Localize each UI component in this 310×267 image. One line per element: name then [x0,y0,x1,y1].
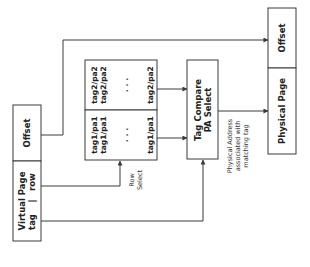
row-label: row [27,173,37,191]
tag-entry: tag1/pa1 [146,116,155,154]
ellipsis: . . . [121,78,130,93]
tag-compare-box: Tag Compare PA Select [187,60,218,159]
virtual-address-box: Offset Virtual Page tag | row [13,105,41,241]
pa-note-line-2: associated with [234,121,242,172]
compare-label-2: PA Select [203,88,213,133]
ellipsis: . . . [121,128,130,143]
row-select-arrow [41,161,120,186]
pa-note-line-3: matching tag [242,124,250,167]
virtual-page-label: Virtual Page [17,171,27,230]
tlb-diagram: Offset Virtual Page tag | row tag2/pa2 t… [0,0,310,267]
physical-page-label: Physical Page [277,78,287,144]
pa-note-line-1: Physical Address [226,118,234,173]
tag-entry: tag2/pa2 [90,66,99,104]
tag-entry: tag1/pa1 [99,116,108,154]
tag-entry: tag1/pa1 [90,116,99,154]
row-select-label-1: Row [128,173,136,187]
physical-address-box: Offset Physical Page [268,8,296,154]
physical-offset-label: Offset [277,24,287,53]
tag-array: tag2/pa2 tag2/pa2 tag2/pa2 . . . tag1/pa… [85,60,157,160]
virtual-offset-label: Offset [22,119,32,148]
tag-row-separator: | [27,199,37,202]
tag-entry: tag2/pa2 [146,66,155,104]
row-select-label-2: Select [136,170,144,191]
tag-entry: tag2/pa2 [99,66,108,104]
tag-to-compare-arrow [41,160,203,221]
compare-label-1: Tag Compare [193,79,203,141]
tag-label: tag [27,214,37,230]
